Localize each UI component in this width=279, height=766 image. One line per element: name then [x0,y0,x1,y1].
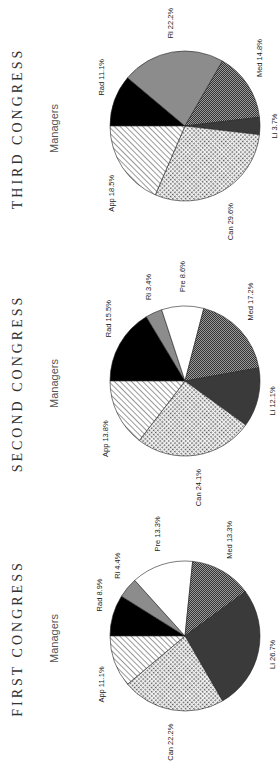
pie-chart: Rad 8.9%Ri 4.4%Pre 13.3%Med 13.3%Li 26.7… [0,511,279,766]
chart-third-congress: THIRD CONGRESS Managers Rad 11.1%Ri 22.2… [0,1,279,256]
slice-label: Li 26.7% [268,639,277,669]
slice-label: Li 12.1% [268,386,277,416]
slice-label: Ri 4.4% [113,552,122,579]
slice-label: Rad 15.5% [104,300,113,337]
slice-label: Li 3.7% [270,113,279,138]
slice-label: Med 14.8% [255,39,264,77]
slice-label: Pre 8.6% [178,261,187,292]
slice-label: App 13.8% [101,420,110,457]
slice-label: Ri 3.4% [144,273,153,300]
slice-label: Ri 22.2% [166,8,175,39]
slice-label: Med 17.2% [246,282,255,320]
slice-label: Can 29.6% [226,203,235,240]
slice-label: App 18.5% [107,175,116,212]
pie-chart: Rad 11.1%Ri 22.2%Med 14.8%Li 3.7%Can 29.… [0,1,279,256]
slice-label: Med 13.3% [225,521,234,559]
rotated-page: FIRST CONGRESS Managers Rad 8.9%Ri 4.4%P… [0,0,279,766]
slice-label: App 11.1% [97,666,106,702]
slice-label: Can 24.1% [194,469,203,506]
slice-label: Rad 11.1% [97,59,106,96]
chart-first-congress: FIRST CONGRESS Managers Rad 8.9%Ri 4.4%P… [0,511,279,766]
slice-label: Rad 8.9% [95,578,104,611]
slice-label: Pre 13.3% [153,516,162,551]
pie-chart: Rad 15.5%Ri 3.4%Pre 8.6%Med 17.2%Li 12.1… [0,256,279,511]
slice-label: Can 22.2% [166,723,175,760]
chart-second-congress: SECOND CONGRESS Managers Rad 15.5%Ri 3.4… [0,256,279,511]
